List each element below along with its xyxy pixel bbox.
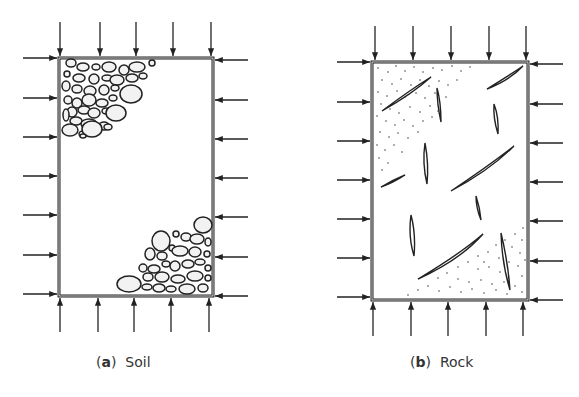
right-stress-arrows bbox=[215, 60, 248, 296]
left-stress-arrows bbox=[23, 58, 57, 294]
caption-letter: a bbox=[101, 354, 110, 370]
caption-soil: (a) Soil bbox=[96, 354, 151, 370]
left-stress-arrows bbox=[337, 62, 370, 297]
caption-rock: (b) Rock bbox=[410, 354, 473, 370]
top-stress-arrows bbox=[60, 22, 211, 56]
soil-particles-bottom-right bbox=[117, 217, 212, 294]
soil-panel bbox=[23, 22, 248, 332]
bottom-stress-arrows bbox=[373, 302, 523, 336]
diagram-canvas bbox=[0, 0, 579, 397]
caption-label: Soil bbox=[125, 354, 150, 370]
bottom-stress-arrows bbox=[60, 298, 209, 332]
right-stress-arrows bbox=[530, 64, 563, 300]
caption-letter: b bbox=[415, 354, 425, 370]
top-stress-arrows bbox=[375, 26, 526, 60]
caption-label: Rock bbox=[440, 354, 473, 370]
soil-particles-top-left bbox=[62, 59, 155, 138]
rock-fissures bbox=[381, 66, 523, 290]
rock-panel bbox=[337, 26, 563, 336]
